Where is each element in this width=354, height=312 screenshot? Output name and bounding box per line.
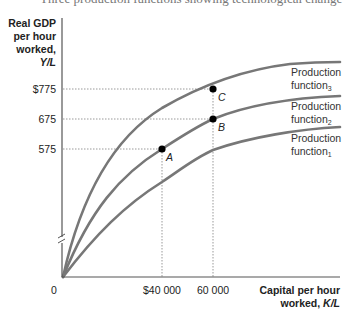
legend-production-function-1: Production function1	[291, 132, 341, 161]
x-tick-60000: 60 000	[197, 284, 229, 296]
y-tick-675: 675	[38, 113, 56, 125]
y-axis-title-line1: Real GDP	[8, 17, 56, 30]
point-c-label: C	[218, 91, 226, 103]
legend-1-subscript: 1	[328, 151, 332, 158]
legend-1-prefix: function	[291, 145, 328, 157]
legend-production-function-2: Production function2	[291, 100, 341, 129]
legend-3-prefix: function	[291, 79, 328, 91]
x-tick-40000: $40 000	[143, 284, 181, 296]
y-axis-title: Real GDP per hour worked, Y/L	[8, 17, 56, 69]
legend-1-main: Production	[291, 132, 341, 145]
legend-3-subscript: 3	[328, 85, 332, 92]
legend-2-subscript: 2	[328, 119, 332, 126]
point-a-marker	[158, 145, 165, 152]
point-b-marker	[209, 115, 216, 122]
x-axis-title: Capital per hour worked, K/L	[259, 284, 340, 310]
x-axis-title-line1: Capital per hour	[259, 284, 340, 297]
legend-3-main: Production	[291, 66, 341, 79]
legend-production-function-3: Production function3	[291, 66, 341, 95]
axis-break-icon	[58, 234, 66, 243]
point-b-label: B	[218, 121, 225, 133]
point-c-marker	[209, 85, 216, 92]
y-axis-title-line2: per hour	[8, 30, 56, 43]
x-axis-variable: K/L	[323, 297, 340, 309]
y-axis-title-line3: worked,	[8, 43, 56, 56]
x-axis-title-line2: worked,	[280, 297, 320, 309]
y-axis-variable: Y/L	[40, 56, 56, 68]
point-a-label: A	[166, 151, 173, 163]
legend-2-prefix: function	[291, 113, 328, 125]
y-tick-575: 575	[38, 143, 56, 155]
x-tick-origin: 0	[51, 284, 57, 296]
legend-2-main: Production	[291, 100, 341, 113]
y-tick-775: $775	[33, 83, 56, 95]
